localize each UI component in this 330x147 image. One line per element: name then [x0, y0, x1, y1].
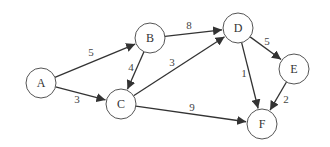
edge-e-f: 2	[270, 82, 289, 110]
edge-a-b: 5	[55, 44, 135, 77]
edge-weight-label: 5	[88, 46, 94, 58]
edge-weight-label: 3	[74, 93, 80, 105]
nodes-layer: ABCDEF	[26, 13, 309, 139]
node-label: D	[234, 21, 243, 35]
edge-d-f: 1	[241, 43, 258, 109]
edge-a-c: 3	[56, 87, 106, 105]
edge-weight-label: 8	[186, 19, 192, 31]
node-label: F	[259, 117, 266, 131]
node-label: B	[146, 31, 154, 45]
edges-layer: 534839512	[55, 19, 289, 122]
node-a: A	[26, 68, 56, 98]
graph-canvas: 534839512 ABCDEF	[0, 0, 330, 147]
edge-b-d: 8	[165, 19, 222, 36]
edge-weight-label: 3	[169, 56, 175, 68]
node-label: A	[37, 76, 46, 90]
edge-weight-label: 1	[241, 67, 247, 79]
arrow-icon	[55, 44, 135, 77]
node-f: F	[247, 109, 277, 139]
node-c: C	[106, 89, 136, 119]
edge-c-f: 9	[136, 101, 246, 122]
node-d: D	[223, 13, 253, 43]
edge-weight-label: 2	[283, 93, 289, 105]
node-label: E	[290, 62, 297, 76]
edge-d-e: 5	[250, 35, 281, 60]
edge-weight-label: 9	[189, 101, 195, 113]
node-b: B	[135, 23, 165, 53]
arrow-icon	[56, 87, 106, 100]
node-e: E	[279, 54, 309, 84]
arrow-icon	[165, 30, 222, 36]
edge-weight-label: 4	[128, 61, 134, 73]
edge-b-c: 4	[127, 52, 144, 90]
edge-weight-label: 5	[264, 35, 270, 47]
node-label: C	[117, 97, 125, 111]
